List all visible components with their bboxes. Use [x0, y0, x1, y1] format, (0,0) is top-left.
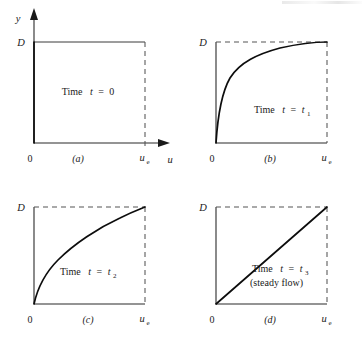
time-prefix-a: Time	[62, 86, 83, 97]
panel-caption-a: (a)	[72, 153, 84, 165]
time-eq-b: =	[291, 104, 297, 115]
free-stream-subscript-d: e	[328, 319, 331, 327]
panel-c: D 0 u e (c) Time t = t 2	[0, 172, 181, 344]
y-axis-arrow-a	[30, 8, 38, 20]
origin-label-a: 0	[28, 153, 33, 164]
panel-caption-b: (b)	[264, 153, 276, 165]
panel-caption-d: (d)	[264, 314, 276, 326]
time-eq-a: =	[98, 86, 104, 97]
free-stream-label-c: u	[139, 313, 144, 324]
time-var-d: t	[280, 263, 283, 274]
time-var-b: t	[282, 104, 285, 115]
steady-flow-note-d: (steady flow)	[250, 277, 303, 289]
panel-d: D 0 u e (d) Time t = t 3 (steady flow)	[182, 172, 363, 344]
time-subscript-d: 3	[305, 269, 309, 277]
velocity-profile-c	[34, 207, 145, 304]
y-axis-label-a: y	[15, 13, 21, 24]
time-prefix-d: Time	[252, 263, 273, 274]
time-var-a: t	[90, 86, 93, 97]
velocity-profile-d	[216, 207, 327, 304]
free-stream-subscript-b: e	[328, 158, 331, 166]
depth-label-d: D	[198, 202, 207, 213]
panel-b: D 0 u e (b) Time t = t 1	[182, 0, 363, 172]
time-value-a: 0	[109, 86, 114, 97]
depth-label-b: D	[198, 37, 207, 48]
time-annotation-a: Time t = 0	[62, 86, 115, 97]
x-axis-arrow-a	[158, 139, 170, 147]
time-annotation-d: Time t = t 3	[252, 263, 309, 277]
velocity-profile-b	[216, 42, 327, 143]
time-annotation-b: Time t = t 1	[254, 104, 311, 118]
free-stream-label-b: u	[321, 152, 326, 163]
time-var-c: t	[88, 266, 91, 277]
panel-caption-c: (c)	[82, 314, 94, 326]
time-prefix-b: Time	[254, 104, 275, 115]
time-eq-c: =	[97, 266, 103, 277]
origin-label-d: 0	[210, 314, 215, 325]
time-prefix-c: Time	[60, 266, 81, 277]
depth-label-a: D	[16, 37, 25, 48]
origin-label-b: 0	[210, 153, 215, 164]
free-stream-label-a: u	[139, 152, 144, 163]
time-subscript-c: 2	[113, 272, 117, 280]
time-subscript-b: 1	[307, 110, 311, 118]
time-value-c: t	[108, 266, 111, 277]
time-value-b: t	[302, 104, 305, 115]
origin-label-c: 0	[28, 314, 33, 325]
velocity-profile-figure: y D 0 u u e (a) Time t = 0	[0, 0, 363, 344]
depth-label-c: D	[16, 202, 25, 213]
x-axis-label-a: u	[167, 154, 172, 165]
free-stream-subscript-c: e	[146, 319, 149, 327]
time-eq-d: =	[289, 263, 295, 274]
time-value-d: t	[300, 263, 303, 274]
free-stream-subscript-a: e	[146, 158, 149, 166]
panel-a: y D 0 u u e (a) Time t = 0	[0, 0, 181, 172]
time-annotation-c: Time t = t 2	[60, 266, 117, 280]
free-stream-label-d: u	[321, 313, 326, 324]
